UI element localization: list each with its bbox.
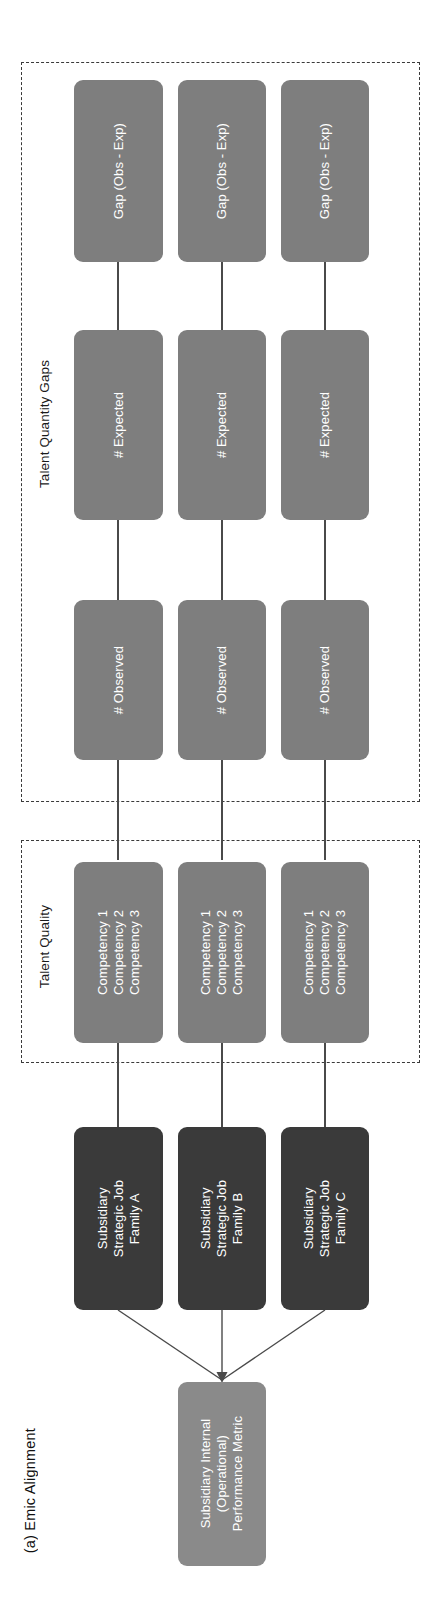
node-metric-label: Subsidiary Internal (Operational) Perfor…	[198, 1416, 246, 1531]
node-competency-col2: Competency 1 Competency 2 Competency 3	[178, 862, 266, 1043]
node-competency-col3-label: Competency 1 Competency 2 Competency 3	[301, 910, 349, 995]
connector-expected-observed-col2	[221, 520, 222, 600]
connector-expected-observed-col1	[117, 520, 118, 600]
node-observed-col1: # Observed	[74, 600, 163, 760]
connector-observed-competency-col2	[221, 760, 222, 860]
node-expected-col2-label: # Expected	[214, 392, 230, 458]
connector-expected-observed-col3	[324, 520, 325, 600]
node-competency-col1: Competency 1 Competency 2 Competency 3	[74, 862, 163, 1043]
node-competency-col3: Competency 1 Competency 2 Competency 3	[281, 862, 369, 1043]
node-expected-col1: # Expected	[74, 330, 163, 520]
node-observed-col3: # Observed	[281, 600, 369, 760]
node-observed-col3-label: # Observed	[317, 646, 333, 714]
node-job-family-b: Subsidiary Strategic Job Family B	[178, 1127, 266, 1310]
node-job-family-b-label: Subsidiary Strategic Job Family B	[198, 1180, 246, 1257]
group-label-talent-quality: Talent Quality	[38, 905, 52, 988]
node-competency-col2-label: Competency 1 Competency 2 Competency 3	[198, 910, 246, 995]
connector-gap-expected-col2	[221, 262, 222, 330]
node-gap-col1-label: Gap (Obs - Exp)	[111, 123, 127, 219]
node-expected-col1-label: # Expected	[111, 392, 127, 458]
node-job-family-a-label: Subsidiary Strategic Job Family A	[95, 1180, 143, 1257]
connector-gap-expected-col1	[117, 262, 118, 330]
node-expected-col3-label: # Expected	[317, 392, 333, 458]
group-label-talent-quantity-gaps: Talent Quantity Gaps	[38, 360, 52, 488]
node-gap-col1: Gap (Obs - Exp)	[74, 80, 163, 262]
edge-jobfamily-a-to-metric	[118, 1310, 222, 1380]
figure-caption: (a) Emic Alignment	[22, 1428, 38, 1553]
node-expected-col3: # Expected	[281, 330, 369, 520]
node-gap-col2: Gap (Obs - Exp)	[178, 80, 266, 262]
figure-emic-alignment: Talent Quantity Gaps Gap (Obs - Exp) Gap…	[0, 0, 445, 1601]
node-gap-col2-label: Gap (Obs - Exp)	[214, 123, 230, 219]
node-observed-col2-label: # Observed	[214, 646, 230, 714]
connector-gap-expected-col3	[324, 262, 325, 330]
node-gap-col3: Gap (Obs - Exp)	[281, 80, 369, 262]
node-subsidiary-internal-performance-metric: Subsidiary Internal (Operational) Perfor…	[178, 1382, 266, 1566]
node-job-family-c-label: Subsidiary Strategic Job Family C	[301, 1180, 349, 1257]
node-competency-col1-label: Competency 1 Competency 2 Competency 3	[95, 910, 143, 995]
connector-observed-competency-col1	[117, 760, 118, 860]
connector-competency-jobfamily-col2	[221, 1043, 222, 1127]
connector-competency-jobfamily-col3	[324, 1043, 325, 1127]
connector-observed-competency-col3	[324, 760, 325, 860]
node-observed-col1-label: # Observed	[111, 646, 127, 714]
node-observed-col2: # Observed	[178, 600, 266, 760]
node-gap-col3-label: Gap (Obs - Exp)	[317, 123, 333, 219]
connector-competency-jobfamily-col1	[117, 1043, 118, 1127]
node-job-family-a: Subsidiary Strategic Job Family A	[74, 1127, 163, 1310]
node-expected-col2: # Expected	[178, 330, 266, 520]
edge-jobfamily-c-to-metric	[222, 1310, 325, 1380]
node-job-family-c: Subsidiary Strategic Job Family C	[281, 1127, 369, 1310]
